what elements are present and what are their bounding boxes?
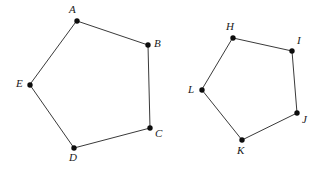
vertex-point-k	[239, 137, 244, 142]
vertex-label-e: E	[16, 78, 23, 89]
vertex-label-l: L	[188, 84, 194, 95]
pentagons-figure	[0, 0, 326, 173]
vertex-point-i	[289, 48, 294, 53]
vertex-dots	[27, 18, 299, 150]
vertex-point-b	[145, 42, 150, 47]
vertex-label-b: B	[154, 38, 161, 49]
vertex-label-k: K	[237, 145, 244, 156]
vertex-point-l	[199, 87, 204, 92]
vertex-point-h	[230, 35, 235, 40]
vertex-label-h: H	[226, 21, 234, 32]
vertex-label-c: C	[155, 128, 162, 139]
vertex-label-d: D	[69, 152, 77, 163]
vertex-point-d	[71, 145, 76, 150]
pentagon-abcde-outline	[30, 21, 150, 148]
vertex-label-a: A	[69, 4, 76, 15]
diagram-canvas: ABCDEHIJKL	[0, 0, 326, 173]
vertex-point-c	[147, 125, 152, 130]
vertex-point-a	[74, 18, 79, 23]
pentagon-hijkl-outline	[202, 38, 297, 140]
vertex-label-j: J	[302, 114, 307, 125]
polygon-outlines	[30, 21, 297, 148]
vertex-point-e	[27, 82, 32, 87]
vertex-label-i: I	[297, 35, 301, 46]
vertex-point-j	[294, 110, 299, 115]
